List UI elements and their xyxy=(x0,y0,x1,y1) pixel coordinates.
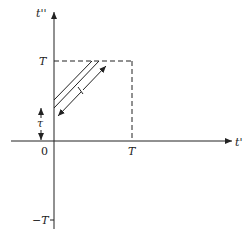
integration-region-diagram: t'' T τ 0 T t' −T xyxy=(0,0,245,241)
horizontal-T-label: T xyxy=(128,145,137,158)
horizontal-axis-label: t' xyxy=(235,136,242,149)
strip-line-upper xyxy=(54,61,92,100)
origin-label: 0 xyxy=(41,145,48,158)
vertical-neg-T-label: −T xyxy=(32,214,50,227)
vertical-axis-label: t'' xyxy=(36,7,46,20)
vertical-T-label: T xyxy=(39,55,48,68)
length-arrow xyxy=(82,66,106,91)
length-arrow-back xyxy=(58,91,82,116)
tau-label: τ xyxy=(37,117,44,130)
strip-line-lower xyxy=(54,61,99,108)
